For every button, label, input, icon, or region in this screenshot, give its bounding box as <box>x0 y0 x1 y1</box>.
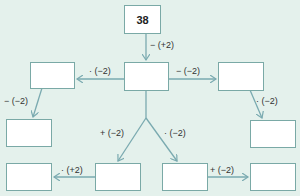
op-center-to-left-mid: · (−2) <box>89 66 111 76</box>
op-bottom-left-center-to-far-left: · (+2) <box>61 165 83 175</box>
bottom-right-center-box[interactable] <box>162 163 208 191</box>
op-left-mid-to-left-lower: − (−2) <box>4 96 28 106</box>
op-center-to-bottom-right-center: · (−2) <box>164 128 186 138</box>
right-mid-box[interactable] <box>218 62 264 91</box>
bottom-left-center-box[interactable] <box>95 163 141 191</box>
start-box: 38 <box>124 5 161 34</box>
op-bottom-right-center-to-far-right: + (−2) <box>210 165 234 175</box>
right-lower-box[interactable] <box>250 120 296 148</box>
bottom-far-right-box[interactable] <box>250 163 296 191</box>
arrow-left-mid-to-left-lower <box>33 88 42 117</box>
operation-tree-diagram: 38 − (+2) · (−2) − (−2) − (−2) · (−2) + … <box>0 0 300 196</box>
op-center-to-bottom-left-center: + (−2) <box>100 128 124 138</box>
start-value: 38 <box>136 14 148 26</box>
op-right-mid-to-right-lower: · (−2) <box>256 96 278 106</box>
op-start-to-center: − (+2) <box>150 40 174 50</box>
op-center-to-right-mid: − (−2) <box>176 66 200 76</box>
center-box[interactable] <box>124 62 169 91</box>
left-mid-box[interactable] <box>30 62 75 89</box>
arrow-center-to-bottom-left-center <box>118 118 146 161</box>
bottom-far-left-box[interactable] <box>6 163 52 191</box>
arrow-center-to-bottom-right-center <box>146 118 177 161</box>
left-lower-box[interactable] <box>6 119 52 147</box>
